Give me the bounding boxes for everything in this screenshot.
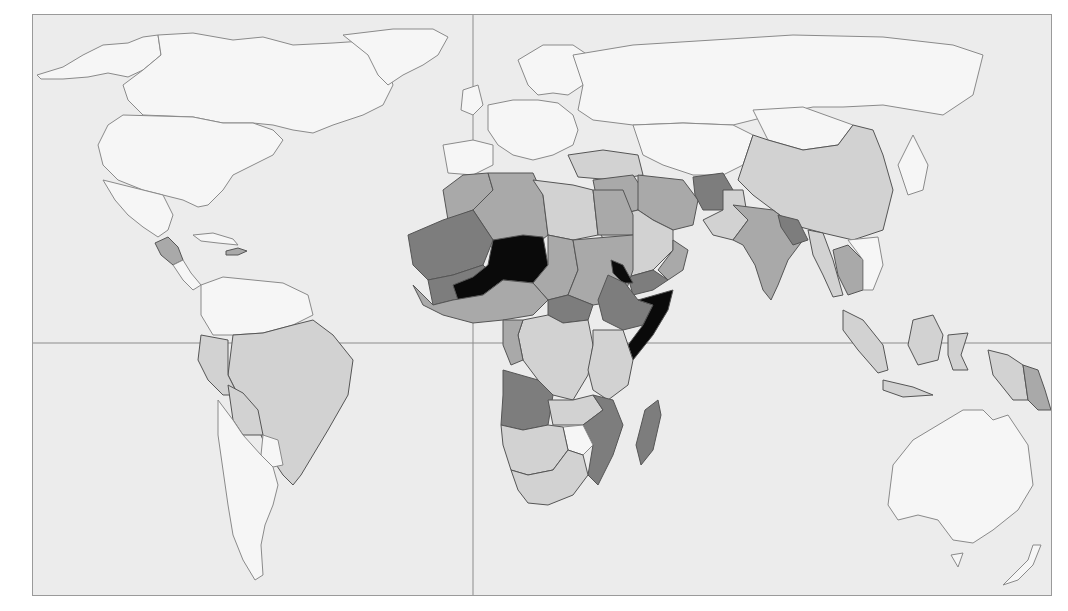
region-sulawesi <box>948 333 968 370</box>
region-australia <box>888 410 1033 543</box>
region-central-asia <box>633 123 753 175</box>
region-kenya-tanzania <box>588 330 633 400</box>
region-central-america-south <box>173 260 201 290</box>
region-sumatra <box>843 310 888 373</box>
region-guatemala-honduras <box>155 237 183 265</box>
world-choropleth-map <box>33 15 1052 596</box>
region-iberia <box>443 140 493 175</box>
world-map-frame <box>32 14 1052 596</box>
region-gabon-cameroon <box>503 320 523 365</box>
region-papua-new-guinea <box>1023 365 1051 410</box>
region-new-zealand <box>1003 545 1041 585</box>
region-uk <box>461 85 483 115</box>
region-tasmania <box>951 553 963 567</box>
region-borneo <box>908 315 943 365</box>
region-haiti <box>226 248 247 255</box>
region-java <box>883 380 933 397</box>
region-western-europe <box>488 100 578 160</box>
region-cuba <box>193 233 238 245</box>
region-west-papua <box>988 350 1028 400</box>
region-japan <box>898 135 928 195</box>
region-madagascar <box>636 400 661 465</box>
